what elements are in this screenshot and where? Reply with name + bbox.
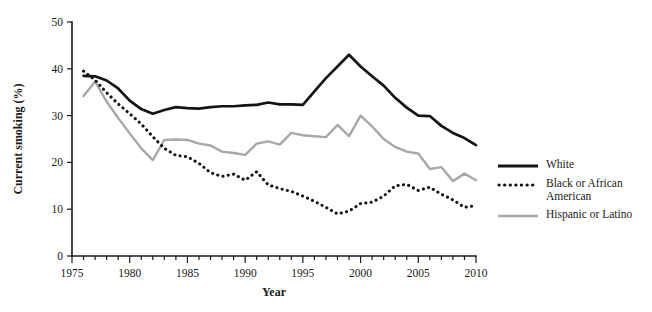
x-tick-label-1985: 1985	[176, 267, 199, 279]
x-tick-label-2010: 2010	[465, 267, 488, 279]
x-tick-label-2005: 2005	[407, 267, 430, 279]
series-line-black-or-african-american	[84, 71, 476, 214]
y-axis-tick-labels: 01020304050	[52, 16, 64, 262]
x-tick-label-2000: 2000	[349, 267, 372, 279]
x-axis-title: Year	[262, 285, 287, 299]
y-tick-label-0: 0	[57, 250, 63, 262]
x-axis-major-ticks	[72, 256, 476, 263]
chart-plot-area: 01020304050 1975198019851990199520002005…	[0, 0, 652, 312]
chart-legend: White Black or African American Hispanic…	[497, 158, 647, 227]
legend-swatch-solid-gray-icon	[497, 208, 539, 222]
y-axis-title: Current smoking (%)	[11, 83, 25, 194]
x-tick-label-1995: 1995	[291, 267, 314, 279]
legend-item-white: White	[497, 158, 647, 172]
y-tick-label-10: 10	[52, 203, 64, 215]
legend-swatch-dotted-black-icon	[497, 177, 539, 191]
series-line-hispanic-or-latino	[84, 81, 476, 181]
y-tick-label-50: 50	[52, 16, 64, 28]
y-tick-label-40: 40	[52, 63, 64, 75]
x-tick-label-1975: 1975	[61, 267, 84, 279]
legend-label-hispanic-or-latino: Hispanic or Latino	[546, 208, 632, 221]
y-tick-label-30: 30	[52, 110, 64, 122]
legend-item-hispanic-or-latino: Hispanic or Latino	[497, 208, 647, 222]
chart-figure: 01020304050 1975198019851990199520002005…	[0, 0, 652, 312]
y-tick-label-20: 20	[52, 156, 64, 168]
legend-item-black-or-african-american: Black or African American	[497, 177, 647, 203]
legend-label-black-or-african-american: Black or African American	[546, 177, 647, 203]
legend-swatch-solid-black-icon	[497, 158, 539, 172]
x-axis-tick-labels: 19751980198519901995200020052010	[61, 267, 488, 279]
legend-label-white: White	[546, 158, 574, 171]
x-tick-label-1990: 1990	[234, 267, 257, 279]
x-tick-label-1980: 1980	[118, 267, 141, 279]
series-line-white	[84, 55, 476, 145]
